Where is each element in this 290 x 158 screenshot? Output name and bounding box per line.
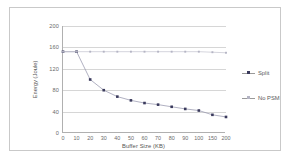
data-point-marker xyxy=(171,51,173,53)
legend-label: No PSM xyxy=(258,95,280,101)
x-tick-label: 200 xyxy=(222,135,231,141)
chart-figure: 04080120160200 0102030405060708090100150… xyxy=(0,0,290,158)
data-point-marker xyxy=(170,105,173,108)
legend-item-no-psm[interactable]: No PSM xyxy=(242,93,290,103)
x-tick-label: 100 xyxy=(194,135,203,141)
x-tick-label: 10 xyxy=(74,135,80,141)
x-tick-label: 40 xyxy=(114,135,120,141)
data-point-marker xyxy=(116,95,119,98)
chart-legend: SplitNo PSM xyxy=(242,68,290,118)
series-line xyxy=(63,52,226,117)
data-point-marker xyxy=(62,51,64,53)
data-point-marker xyxy=(211,114,214,117)
y-tick-label: 160 xyxy=(49,44,59,50)
x-tick-label: 50 xyxy=(128,135,134,141)
y-axis-title-label: Energy (Joule) xyxy=(30,26,40,133)
chart-frame: 04080120160200 0102030405060708090100150… xyxy=(9,7,281,151)
data-point-marker xyxy=(225,116,228,119)
x-tick-label: 80 xyxy=(169,135,175,141)
x-tick-label: 150 xyxy=(208,135,217,141)
data-point-marker xyxy=(130,51,132,53)
y-tick-label: 40 xyxy=(53,109,59,115)
x-tick-label: 20 xyxy=(87,135,93,141)
data-point-marker xyxy=(157,51,159,53)
series-no-psm xyxy=(62,51,227,54)
data-point-marker xyxy=(130,99,133,102)
data-point-marker xyxy=(76,51,78,53)
data-point-marker xyxy=(184,51,186,53)
legend-marker-icon xyxy=(242,70,255,77)
x-tick-label: 90 xyxy=(182,135,188,141)
legend-square-icon xyxy=(247,96,250,99)
legend-label: Split xyxy=(258,70,269,76)
data-point-marker xyxy=(89,51,91,53)
y-tick-label: 200 xyxy=(49,23,59,29)
x-tick-label: 60 xyxy=(142,135,148,141)
legend-item-split[interactable]: Split xyxy=(242,68,290,78)
plot-area: 04080120160200 0102030405060708090100150… xyxy=(62,26,225,133)
legend-marker-icon xyxy=(242,95,255,102)
data-point-marker xyxy=(89,78,92,81)
data-point-marker xyxy=(157,103,160,106)
data-point-marker xyxy=(211,51,213,53)
x-tick-label: 30 xyxy=(101,135,107,141)
y-axis-title: Energy (Joule) xyxy=(30,26,40,133)
data-point-marker xyxy=(198,109,201,112)
data-point-marker xyxy=(102,89,105,92)
data-point-marker xyxy=(225,52,227,54)
data-point-marker xyxy=(103,51,105,53)
data-point-marker xyxy=(184,108,187,111)
data-point-marker xyxy=(198,51,200,53)
y-tick-label: 80 xyxy=(53,87,59,93)
y-tick-label: 0 xyxy=(56,130,59,136)
legend-square-icon xyxy=(247,71,250,74)
data-point-marker xyxy=(143,102,146,105)
x-tick-label: 0 xyxy=(62,135,65,141)
y-tick-label: 120 xyxy=(49,66,59,72)
series-split xyxy=(62,50,228,118)
x-axis-title: Buffer Size (KB) xyxy=(62,143,225,149)
data-point-marker xyxy=(144,51,146,53)
data-point-marker xyxy=(116,51,118,53)
series-group xyxy=(63,26,226,133)
x-tick-label: 70 xyxy=(155,135,161,141)
